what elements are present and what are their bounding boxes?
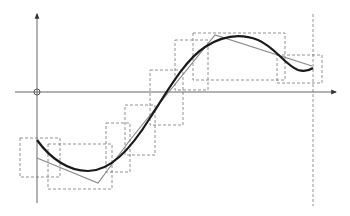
function-approximation-diagram [0, 0, 350, 216]
smooth-curve [37, 36, 313, 171]
piecewise-linear-approximation [37, 35, 312, 183]
diagram-canvas [0, 0, 350, 216]
